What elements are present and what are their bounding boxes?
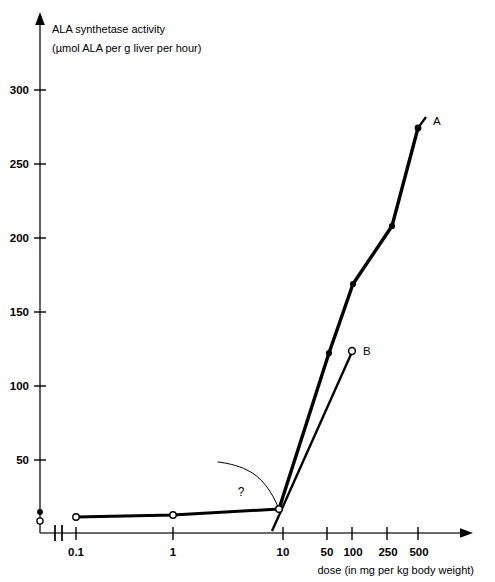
- y-tick-label-150: 150: [10, 306, 29, 318]
- junction-point-marker: [276, 506, 283, 513]
- chart-background: [0, 0, 495, 582]
- chart-figure: 300 250 200 150 100 50 ALA synthetase ac…: [0, 0, 495, 582]
- baseline-point-0.1: [73, 514, 79, 520]
- series-a-point-50: [326, 350, 332, 356]
- x-tick-label-10: 10: [277, 546, 290, 558]
- x-axis-title: dose (in mg per kg body weight): [317, 564, 474, 576]
- x-tick-label-0.1: 0.1: [68, 546, 85, 558]
- question-mark-annotation: ?: [238, 485, 245, 499]
- y-tick-label-50: 50: [16, 454, 29, 466]
- series-a-point-250: [389, 223, 395, 229]
- curve-b-label: B: [363, 345, 371, 357]
- x-tick-label-1: 1: [170, 546, 177, 558]
- series-a-point-500: [415, 125, 422, 132]
- y-tick-label-200: 200: [10, 232, 29, 244]
- y-axis-title-line1: ALA synthetase activity: [52, 23, 166, 35]
- chart-canvas: 300 250 200 150 100 50 ALA synthetase ac…: [0, 0, 495, 582]
- x-tick-label-250: 250: [378, 546, 397, 558]
- y-tick-label-100: 100: [10, 380, 29, 392]
- y-axis-title-line2: (µmol ALA per g liver per hour): [52, 42, 201, 54]
- baseline-point-1: [170, 512, 176, 518]
- series-b-endpoint-marker: [349, 348, 356, 355]
- y-tick-label-300: 300: [10, 84, 29, 96]
- curve-a-label: A: [433, 115, 441, 127]
- x-tick-label-100: 100: [343, 546, 362, 558]
- x-tick-label-50: 50: [321, 546, 334, 558]
- control-open-circle-marker: [37, 518, 43, 524]
- y-tick-label-250: 250: [10, 158, 29, 170]
- x-tick-label-500: 500: [409, 546, 428, 558]
- series-a-point-100: [350, 281, 356, 287]
- control-filled-circle-marker: [37, 509, 43, 515]
